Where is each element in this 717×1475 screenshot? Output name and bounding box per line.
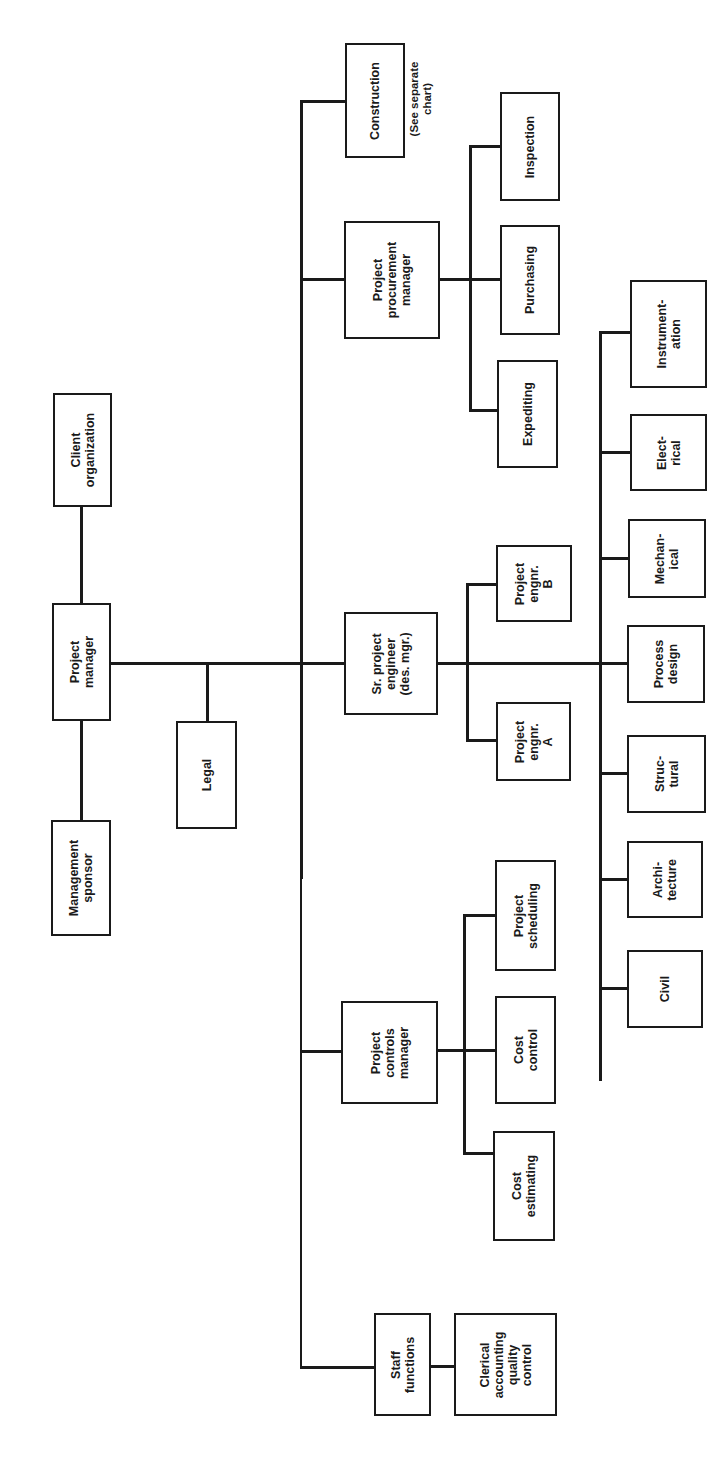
node-project-scheduling: Project scheduling [495,860,556,971]
connector-estimating [463,1152,493,1155]
connector-client-pm [80,506,83,603]
node-label: Clerical accounting quality control [478,1331,534,1398]
node-label: Management sponsor [67,840,95,916]
node-label: Construction [368,62,382,140]
node-label: Process design [652,640,680,689]
discipline-branch-line [599,331,602,1081]
node-inspection: Inspection [500,92,560,201]
node-purchasing: Purchasing [500,225,560,335]
controls-branch-line [463,914,466,1155]
node-label: Project procurement manager [371,242,413,318]
node-project-manager: Project manager [52,603,111,721]
connector-pm-trunk [110,662,344,665]
procurement-branch-line [469,145,472,412]
connector-instrumentation [599,331,630,334]
node-clerical-accounting-quality-control: Clerical accounting quality control [454,1313,557,1416]
connector-expediting [469,409,497,412]
connector-construction [300,100,345,103]
node-cost-control: Cost control [495,996,556,1104]
node-label: Expediting [521,382,535,446]
node-label: Mechan- ical [653,533,681,584]
node-label: Legal [200,759,214,792]
main-spine-line-lower [300,878,302,1368]
node-architecture: Archi- tecture [627,841,703,918]
node-cost-estimating: Cost estimating [493,1131,555,1241]
connector-pm-sponsor [80,720,83,820]
node-label: Cost estimating [510,1155,538,1218]
connector-legal [206,662,209,721]
node-label: Project scheduling [512,883,540,949]
connector-scheduling [463,914,495,917]
node-project-engineer-a: Project engnr. A [496,702,571,781]
construction-note: (See separate chart) [408,62,434,137]
node-mechanical: Mechan- ical [628,519,706,598]
connector-mechanical [599,557,628,560]
connector-clerical [430,1365,454,1368]
node-construction: Construction [345,43,405,158]
node-label: Archi- tecture [651,859,679,901]
connector-engineer-b [466,583,496,586]
node-sr-project-engineer: Sr. project engineer (des. mgr.) [344,612,438,715]
node-label: Staff functions [389,1336,417,1392]
node-civil: Civil [627,950,703,1028]
node-label: Project controls manager [369,1026,411,1078]
node-process-design: Process design [627,625,705,703]
node-label: Elect- rical [655,435,683,469]
node-label: Instrument- ation [655,300,683,369]
node-label: Cost control [512,1029,540,1071]
node-project-engineer-b: Project engnr. B [496,545,572,622]
connector-inspection [469,145,500,148]
node-management-sponsor: Management sponsor [51,820,111,936]
connector-procurement [300,278,344,281]
main-spine-line [300,101,303,879]
connector-controls [300,1050,341,1053]
connector-engineer-a [466,739,496,742]
node-label: Project manager [68,636,96,688]
node-label: Struc- tural [653,756,681,792]
node-label: Project engnr. B [513,562,555,604]
node-label: Civil [658,976,672,1002]
node-controls-manager: Project controls manager [341,1001,438,1104]
node-label: Purchasing [523,246,537,314]
node-instrumentation: Instrument- ation [630,280,707,388]
node-client-organization: Client organization [53,393,112,507]
node-label: Sr. project engineer (des. mgr.) [370,632,412,695]
node-legal: Legal [176,721,237,829]
node-electrical: Elect- rical [630,414,707,491]
node-label: Client organization [69,413,97,487]
node-procurement-manager: Project procurement manager [344,221,440,339]
connector-civil [599,987,627,990]
connector-electrical [599,451,630,454]
connector-staff [300,1366,374,1369]
connector-structural [599,772,627,775]
sr-engineer-branch-line [466,583,469,741]
connector-controls-out [437,1049,495,1052]
node-label: Project engnr. A [513,720,555,762]
node-structural: Struc- tural [627,735,706,813]
node-label: Inspection [523,115,537,178]
node-staff-functions: Staff functions [374,1313,431,1416]
connector-architecture [599,878,627,881]
node-expediting: Expediting [497,360,558,468]
